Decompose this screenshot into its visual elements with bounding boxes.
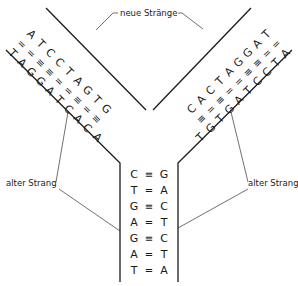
stem-base-pairs: C≡GT=AG≡CA=TG≡CA=TT=A (130, 168, 169, 277)
left-base: C (130, 168, 138, 181)
old-base: T (241, 84, 256, 99)
old-base: G (33, 74, 48, 89)
bond-symbol: = (145, 185, 153, 196)
left-base: T (130, 184, 138, 197)
unpaired-base: T (193, 130, 208, 145)
new-strands-leader-left (96, 13, 118, 30)
right-base: C (160, 200, 168, 213)
old-base: G (222, 102, 237, 117)
bond-symbol: ≡ (145, 233, 153, 244)
bond-symbol: = (145, 265, 153, 276)
old-strand-right-leader-up (231, 112, 248, 182)
right-base: T (160, 248, 168, 261)
right-base: A (160, 264, 168, 277)
left-base: A (130, 248, 138, 261)
left-base: G (130, 200, 139, 213)
old-base: A (232, 93, 247, 108)
old-base: C (250, 74, 265, 89)
replication-fork-diagram: neue Stränge alter Strang alter Strang T… (0, 0, 298, 286)
old-strand-left-leader-up (56, 112, 68, 182)
right-base: G (160, 168, 169, 181)
old-base: C (61, 102, 76, 117)
old-base: A (43, 84, 58, 99)
bond-symbol: ≡ (145, 169, 153, 180)
old-strand-right-label: alter Strang (248, 178, 298, 188)
old-base: A (278, 46, 293, 61)
old-base: A (15, 56, 30, 71)
bond-symbol: = (145, 249, 153, 260)
left-base: G (130, 232, 139, 245)
new-strands-leader-right (178, 13, 203, 29)
old-base: T (5, 46, 20, 61)
right-base: A (160, 184, 168, 197)
old-base: G (23, 65, 38, 80)
old-base: T (269, 56, 284, 71)
old-strand-left-label: alter Strang (6, 178, 57, 188)
right-base: C (160, 232, 168, 245)
bond-symbol: ≡ (145, 201, 153, 212)
left-arm-base-pairs: T=AA=TG≡CG≡CA=TT=AC≡GA=TC≡GA (5, 27, 114, 145)
old-base: T (51, 93, 66, 108)
old-base: T (213, 112, 228, 127)
left-old-strand-backbone (6, 50, 120, 282)
new-strands-label: neue Stränge (120, 8, 177, 18)
left-base: A (130, 216, 138, 229)
old-base: C (80, 121, 95, 136)
old-base: C (260, 65, 275, 80)
unpaired-base: A (90, 130, 105, 145)
right-arm-base-pairs: T=AA=TG≡CG≡CA=TT=AC≡GA=TC≡GT (184, 27, 293, 145)
old-strand-left-leader-down (59, 189, 120, 231)
old-base: G (203, 121, 218, 136)
right-base: T (160, 216, 168, 229)
old-strand-right-leader-down (178, 189, 248, 228)
bond-symbol: = (145, 217, 153, 228)
left-base: T (130, 264, 138, 277)
old-base: A (71, 112, 86, 127)
